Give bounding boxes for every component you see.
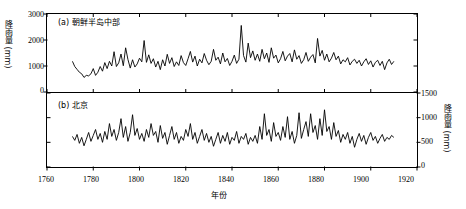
series-line-korea bbox=[72, 25, 393, 77]
series-line-beijing bbox=[72, 110, 393, 148]
panel-a-ticks bbox=[44, 14, 418, 92]
panel-b-frame bbox=[47, 93, 418, 168]
plot-canvas bbox=[0, 0, 466, 209]
panel-b-ticks bbox=[47, 93, 421, 167]
figure-precipitation-timeseries: 降雨量 (mm) 降雨量 (mm) 3000 2000 1000 0 1500 … bbox=[0, 0, 466, 209]
panel-a-frame bbox=[47, 14, 418, 93]
